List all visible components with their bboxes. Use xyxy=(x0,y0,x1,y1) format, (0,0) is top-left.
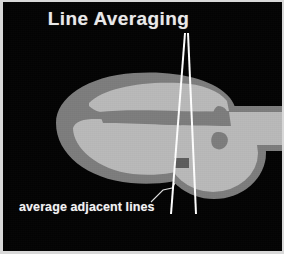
caption-label: average adjacent lines xyxy=(19,200,155,215)
figure-container: Line Averaging average adjacent lines xyxy=(0,0,284,254)
diagram-canvas: Line Averaging average adjacent lines xyxy=(3,2,282,251)
page-title: Line Averaging xyxy=(3,8,282,30)
sample-marker-box xyxy=(174,158,189,168)
tissue-group xyxy=(56,72,282,199)
